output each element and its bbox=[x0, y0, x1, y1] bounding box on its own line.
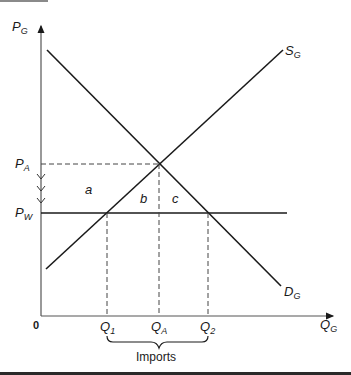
demand-label: DG bbox=[284, 285, 300, 301]
imports-brace bbox=[107, 336, 208, 348]
demand-curve bbox=[47, 50, 281, 286]
area-b-label: b bbox=[140, 192, 147, 205]
q2-label: Q2 bbox=[200, 320, 215, 336]
autarky-price-label: PA bbox=[15, 157, 30, 173]
q1-label: Q1 bbox=[100, 320, 115, 336]
world-price-label: PW bbox=[15, 206, 32, 222]
supply-label: SG bbox=[285, 44, 301, 60]
imports-label: Imports bbox=[136, 351, 176, 363]
qa-label: QA bbox=[151, 320, 167, 336]
origin-label: 0 bbox=[33, 320, 39, 331]
area-a-label: a bbox=[85, 183, 92, 196]
area-c-label: c bbox=[172, 192, 179, 205]
x-axis-label: QG bbox=[320, 318, 337, 334]
import-diagram: PG QG 0 SG DG PA PW Q1 QA Q2 a b c Impor… bbox=[0, 0, 351, 375]
y-axis-label: PG bbox=[12, 20, 28, 36]
supply-curve bbox=[46, 50, 283, 269]
